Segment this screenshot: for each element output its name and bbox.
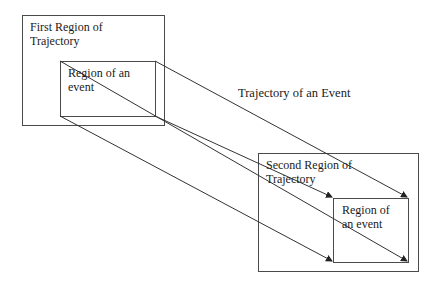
second-region-label-line1: Second Region of [266, 158, 352, 172]
trajectory-label: Trajectory of an Event [238, 86, 350, 100]
second-region-label: Second Region of Trajectory [266, 158, 352, 186]
first-region-label-line2: Trajectory [30, 34, 103, 48]
first-region-label-line1: First Region of [30, 20, 103, 34]
first-region-label: First Region of Trajectory [30, 20, 103, 48]
event-region-2-label-line1: Region of [342, 203, 390, 217]
event-region-2-label: Region of an event [342, 203, 390, 231]
event-region-2-label-line2: an event [342, 217, 390, 231]
second-region-label-line2: Trajectory [266, 172, 352, 186]
event-region-1-label-line2: event [68, 80, 130, 94]
event-region-1-label-line1: Region of an [68, 66, 130, 80]
trajectory-arrow-bottom-left [60, 116, 332, 261]
event-region-1-label: Region of an event [68, 66, 130, 94]
